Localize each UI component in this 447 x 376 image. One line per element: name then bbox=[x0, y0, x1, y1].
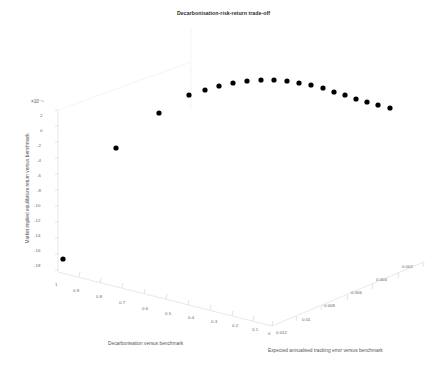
y-tick-label: -14 bbox=[34, 233, 40, 238]
axis-lines bbox=[58, 28, 424, 326]
scatter-point bbox=[320, 85, 325, 90]
x-tick-label: 0.2 bbox=[232, 323, 238, 328]
scatter-point bbox=[271, 77, 276, 82]
scatter-point bbox=[308, 82, 313, 87]
scatter-point bbox=[202, 87, 207, 92]
scatter-point bbox=[216, 83, 221, 88]
y-tick-label: -16 bbox=[34, 248, 40, 253]
y-tick-label: 2 bbox=[40, 113, 42, 118]
x-tick-label: 0.4 bbox=[188, 315, 194, 320]
x-axis-line bbox=[58, 272, 272, 326]
y-axis-exponent: ×10⁻⁵ bbox=[31, 99, 44, 104]
x-tick-label: 0.7 bbox=[119, 300, 125, 305]
scatter-point bbox=[296, 80, 301, 85]
scatter-point bbox=[60, 256, 65, 261]
scatter-point bbox=[230, 80, 235, 85]
scatter-point bbox=[156, 110, 161, 115]
z-axis-line bbox=[272, 262, 424, 326]
scatter-point bbox=[342, 92, 347, 97]
scatter-point bbox=[353, 96, 358, 101]
scatter-point bbox=[284, 78, 289, 83]
y-tick-label: 0 bbox=[40, 128, 42, 133]
scatter-point bbox=[113, 145, 118, 150]
y-tick-label: -8 bbox=[37, 188, 41, 193]
z-tick-label: 0.002 bbox=[402, 264, 413, 269]
x-axis-label: Decarbonisation versus benchmark bbox=[108, 341, 183, 346]
y-tick-label: -2 bbox=[37, 143, 41, 148]
z-tick-label: 0.01 bbox=[302, 317, 311, 322]
y-tick-label: -18 bbox=[34, 263, 40, 268]
x-tick-label: 0.5 bbox=[165, 311, 171, 316]
top-back-edge bbox=[58, 62, 191, 110]
x-tick-label: 0 bbox=[268, 331, 270, 336]
plot-area bbox=[0, 0, 447, 376]
scatter-point bbox=[387, 105, 392, 110]
y-axis-label: Market implied equilibrium return versus… bbox=[25, 119, 30, 259]
scatter-point bbox=[244, 78, 249, 83]
scatter-point bbox=[186, 92, 191, 97]
scatter-point bbox=[258, 77, 263, 82]
scatter-point bbox=[331, 89, 336, 94]
y-tick-label: -10 bbox=[34, 203, 40, 208]
y-tick-label: -6 bbox=[37, 173, 41, 178]
y-tick-label: -12 bbox=[34, 218, 40, 223]
z-tick-label: 0.008 bbox=[324, 303, 335, 308]
scatter-point bbox=[375, 102, 380, 107]
z-axis-label: Expected annualised tracking error versu… bbox=[268, 348, 383, 353]
x-tick-label: 0.1 bbox=[252, 327, 258, 332]
x-tick-label: 0.6 bbox=[142, 306, 148, 311]
x-tick-label: 0.8 bbox=[96, 294, 102, 299]
z-tick-label: 0.006 bbox=[351, 290, 362, 295]
figure-canvas: Decarbonisation-risk-return trade-off bbox=[0, 0, 447, 376]
x-tick-label: 1 bbox=[55, 282, 57, 287]
z-tick-label: 0.012 bbox=[276, 330, 287, 335]
x-tick-label: 0.9 bbox=[73, 288, 79, 293]
scatter-point bbox=[364, 99, 369, 104]
tick-marks bbox=[55, 110, 424, 326]
x-tick-label: 0.3 bbox=[211, 319, 217, 324]
z-tick-label: 0.004 bbox=[376, 277, 387, 282]
y-tick-label: -4 bbox=[37, 158, 41, 163]
scatter-markers bbox=[60, 77, 392, 261]
